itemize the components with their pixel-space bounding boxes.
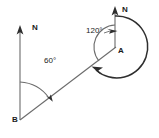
angle-label-60: 60° [44,57,56,65]
angle-arc-60-path [20,82,49,98]
north-label-b: N [32,24,38,32]
north-line-a [112,6,119,48]
point-label-a: A [118,47,124,55]
bearing-diagram: N N B A 60° 120° [0,0,159,138]
north-line-b [17,25,24,120]
diagram-canvas [0,0,159,138]
angle-120-leader [104,31,110,33]
angle-label-120: 120° [86,27,103,35]
segment-ba [20,47,116,120]
point-label-b: B [12,116,18,124]
north-label-a: N [122,6,128,14]
